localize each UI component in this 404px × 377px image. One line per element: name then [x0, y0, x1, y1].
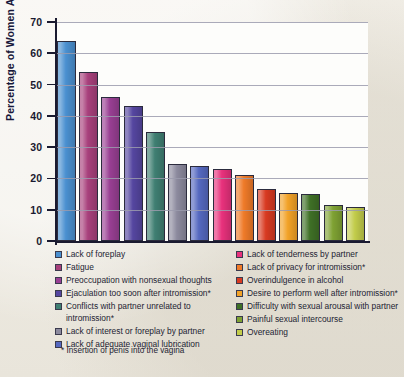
- legend-label: Lack of foreplay: [66, 249, 230, 261]
- gridline: [57, 22, 368, 23]
- bar: [235, 175, 254, 241]
- legend-swatch: [236, 290, 243, 297]
- gridline: [57, 53, 368, 54]
- legend-label: Lack of interest or foreplay by partner: [66, 326, 230, 338]
- legend-label: Lack of privacy for intromission*: [247, 262, 404, 274]
- bar: [346, 207, 365, 241]
- legend-swatch: [236, 303, 243, 310]
- legend-swatch: [236, 264, 243, 271]
- legend-label: Fatigue: [66, 262, 230, 274]
- legend-swatch: [55, 303, 62, 310]
- legend-swatch: [236, 316, 243, 323]
- bar-slot: [213, 22, 235, 241]
- bar: [57, 41, 76, 241]
- bar: [213, 169, 232, 241]
- y-axis-tick-label: 40: [2, 110, 42, 122]
- y-axis-tick-label: 60: [2, 47, 42, 59]
- x-axis-line: [55, 241, 370, 243]
- legend-swatch: [236, 329, 243, 336]
- legend-swatch: [55, 264, 62, 271]
- gridline: [57, 210, 368, 211]
- bar-slot: [301, 22, 323, 241]
- legend-item: Lack of tenderness by partner: [236, 249, 404, 261]
- legend-item: Conflicts with partner unrelated to intr…: [55, 301, 230, 324]
- y-axis-tick: [47, 209, 55, 211]
- bar: [279, 193, 298, 241]
- bar: [257, 189, 276, 241]
- legend-swatch: [55, 251, 62, 258]
- legend-item: Lack of interest or foreplay by partner: [55, 326, 230, 338]
- chart-legend: Lack of foreplayFatiguePreoccupation wit…: [55, 249, 400, 369]
- y-axis-tick: [47, 178, 55, 180]
- y-axis-tick: [47, 115, 55, 117]
- y-axis-tick: [47, 21, 55, 23]
- legend-item: Difficulty with sexual arousal with part…: [236, 301, 404, 313]
- y-axis-tick-label: 20: [2, 172, 42, 184]
- legend-swatch: [236, 277, 243, 284]
- bar: [79, 72, 98, 241]
- bar-series: [57, 22, 368, 241]
- bar-slot: [101, 22, 123, 241]
- legend-item: Painful sexual intercourse: [236, 314, 404, 326]
- y-axis-tick: [47, 52, 55, 54]
- bar-slot: [257, 22, 279, 241]
- bar: [301, 194, 320, 241]
- legend-item: Preoccupation with nonsexual thoughts: [55, 275, 230, 287]
- y-axis-tick-label: 30: [2, 141, 42, 153]
- bar: [168, 164, 187, 241]
- bar-slot: [190, 22, 212, 241]
- gridline: [57, 85, 368, 86]
- bar-slot: [279, 22, 301, 241]
- y-axis-tick-label: 70: [2, 16, 42, 28]
- legend-column-right: Lack of tenderness by partnerLack of pri…: [236, 249, 404, 340]
- legend-item: Fatigue: [55, 262, 230, 274]
- bar: [190, 166, 209, 241]
- legend-item: Lack of foreplay: [55, 249, 230, 261]
- bar-slot: [235, 22, 257, 241]
- legend-item: Desire to perform well after intromissio…: [236, 288, 404, 300]
- legend-label: Overindulgence in alcohol: [247, 275, 404, 287]
- bar-slot: [57, 22, 79, 241]
- bar-slot: [346, 22, 368, 241]
- legend-label: Conflicts with partner unrelated to intr…: [66, 301, 230, 324]
- bar-chart-figure: Percentage of Women Affected 01020304050…: [0, 0, 404, 377]
- legend-swatch: [55, 328, 62, 335]
- bar-slot: [124, 22, 146, 241]
- legend-label: Painful sexual intercourse: [247, 314, 404, 326]
- bar: [124, 106, 143, 241]
- y-axis-tick-label: 0: [2, 235, 42, 247]
- y-axis-tick-label: 10: [2, 204, 42, 216]
- y-axis-tick: [47, 84, 55, 86]
- legend-swatch: [55, 290, 62, 297]
- legend-label: Overeating: [247, 327, 404, 339]
- legend-item: Overindulgence in alcohol: [236, 275, 404, 287]
- legend-label: Preoccupation with nonsexual thoughts: [66, 275, 230, 287]
- bar: [101, 97, 120, 241]
- legend-footnote: * Insertion of penis into the vagina: [61, 345, 291, 357]
- y-axis-tick: [47, 146, 55, 148]
- legend-label: Difficulty with sexual arousal with part…: [247, 301, 404, 313]
- legend-swatch: [236, 251, 243, 258]
- y-axis-tick-label: 50: [2, 79, 42, 91]
- legend-column-left: Lack of foreplayFatiguePreoccupation wit…: [55, 249, 230, 351]
- legend-label: Ejaculation too soon after intromission*: [66, 288, 230, 300]
- y-axis-tick: [47, 240, 55, 242]
- bar-slot: [79, 22, 101, 241]
- gridline: [57, 178, 368, 179]
- bar-slot: [168, 22, 190, 241]
- bar-slot: [146, 22, 168, 241]
- bar-slot: [324, 22, 346, 241]
- gridline: [57, 116, 368, 117]
- legend-item: Ejaculation too soon after intromission*: [55, 288, 230, 300]
- legend-swatch: [55, 277, 62, 284]
- legend-label: Desire to perform well after intromissio…: [247, 288, 404, 300]
- gridline: [57, 147, 368, 148]
- legend-item: Lack of privacy for intromission*: [236, 262, 404, 274]
- legend-item: Overeating: [236, 327, 404, 339]
- legend-label: Lack of tenderness by partner: [247, 249, 404, 261]
